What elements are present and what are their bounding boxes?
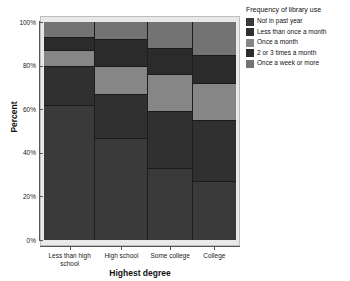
bar-segment	[148, 48, 192, 74]
legend: Frequency of library use Not in past yea…	[246, 6, 350, 70]
legend-item[interactable]: 2 or 3 times a month	[246, 49, 350, 58]
y-axis-tick	[39, 22, 43, 23]
x-axis-tick	[170, 246, 171, 250]
x-axis-tick-label: College	[187, 252, 241, 260]
y-axis-tick-label: 20%	[2, 193, 36, 200]
legend-title: Frequency of library use	[246, 6, 350, 14]
bar-column	[193, 22, 236, 240]
legend-item-label: Once a month	[257, 38, 298, 46]
y-axis-tick-label: 40%	[2, 149, 36, 156]
x-axis-tick	[70, 246, 71, 250]
bar-segment	[193, 83, 236, 120]
legend-swatch-icon	[246, 28, 254, 36]
x-axis-tick-label: Less than high school	[43, 252, 97, 267]
bar-segment	[44, 105, 94, 240]
legend-item-label: Once a week or more	[257, 59, 319, 67]
legend-item-label: 2 or 3 times a month	[257, 49, 316, 57]
chart-screenshot: 0%20%40%60%80%100% Percent Less than hig…	[0, 0, 350, 281]
x-axis-tick	[121, 246, 122, 250]
legend-swatch-icon	[246, 60, 254, 68]
y-axis-tick-label: 100%	[2, 19, 36, 26]
bar-segment	[44, 22, 94, 37]
legend-item[interactable]: Not in past year	[246, 17, 350, 26]
y-axis-tick-label: 60%	[2, 106, 36, 113]
bar-segment	[44, 50, 94, 65]
bar-segment	[148, 111, 192, 168]
y-axis-tick	[39, 66, 43, 67]
bar-segment	[193, 55, 236, 83]
bar-column	[95, 22, 147, 240]
bar-segment	[193, 22, 236, 55]
bar-column	[44, 22, 95, 240]
bar-segment	[95, 66, 146, 94]
legend-item-label: Less than once a month	[257, 28, 326, 36]
legend-items: Not in past yearLess than once a monthOn…	[246, 17, 350, 68]
legend-swatch-icon	[246, 18, 254, 26]
bar-segment	[193, 120, 236, 181]
legend-item[interactable]: Once a month	[246, 38, 350, 47]
y-axis-tick	[39, 240, 43, 241]
bar-column	[148, 22, 193, 240]
bar-segment	[44, 37, 94, 50]
legend-item[interactable]: Once a week or more	[246, 59, 350, 68]
x-axis-title: Highest degree	[40, 268, 240, 278]
y-axis-tick	[39, 196, 43, 197]
x-axis-tick	[214, 246, 215, 250]
y-axis-tick	[39, 109, 43, 110]
legend-swatch-icon	[246, 39, 254, 47]
bar-segment	[95, 138, 146, 240]
y-axis-tick-label: 0%	[2, 237, 36, 244]
bar-segment	[44, 66, 94, 105]
bar-segment	[148, 74, 192, 111]
y-axis-line	[39, 21, 40, 241]
y-axis-tick	[39, 153, 43, 154]
bar-segment	[148, 168, 192, 240]
legend-item[interactable]: Less than once a month	[246, 28, 350, 37]
legend-swatch-icon	[246, 49, 254, 57]
x-axis-tick-label: High school	[94, 252, 148, 260]
y-axis-tick-label: 80%	[2, 62, 36, 69]
bar-segment	[148, 22, 192, 48]
bar-segment	[95, 94, 146, 138]
bar-segment	[95, 22, 146, 39]
plot-area	[44, 22, 236, 240]
bar-segment	[95, 39, 146, 65]
bar-segment	[193, 181, 236, 240]
y-axis-title: Percent	[9, 87, 19, 147]
legend-item-label: Not in past year	[257, 17, 303, 25]
